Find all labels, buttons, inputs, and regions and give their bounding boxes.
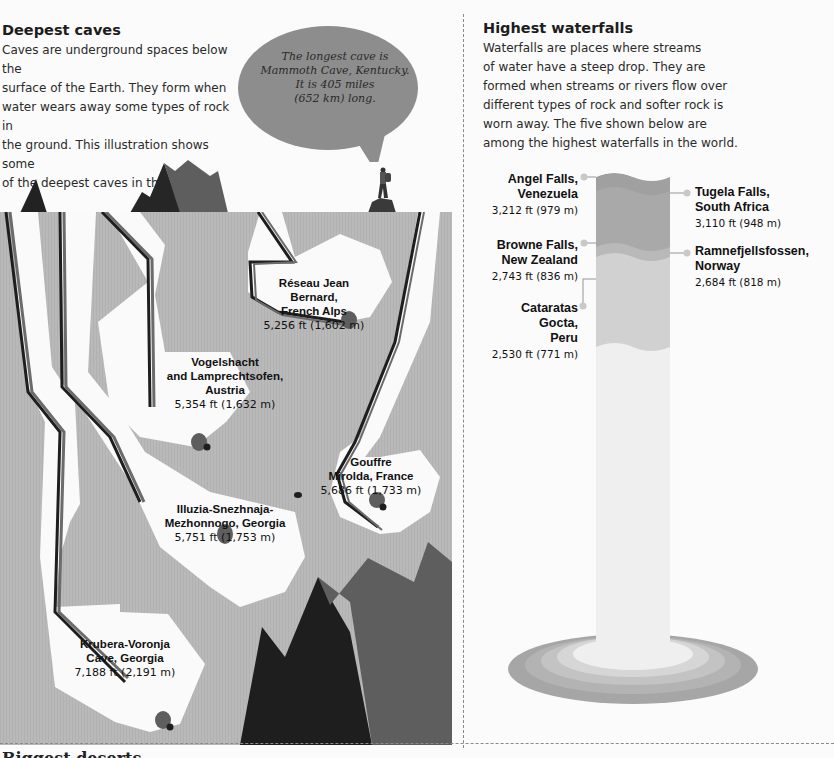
- waterfall-label: Ramnefjellsfossen, Norway 2,684 ft (818 …: [695, 244, 834, 291]
- cave-label: Illuzia-Snezhnaja- Mezhonnogo, Georgia 5…: [150, 502, 300, 545]
- section-divider-vertical: [463, 14, 464, 748]
- speech-bubble-text: The longest cave is Mammoth Cave, Kentuc…: [260, 50, 410, 106]
- section-divider-horizontal: [0, 743, 834, 744]
- surface-mountains-icon: [0, 160, 460, 216]
- caves-section: Deepest caves Caves are underground spac…: [0, 0, 460, 745]
- waterfalls-intro: Waterfalls are places where streams of w…: [483, 39, 783, 153]
- waterfall-label: Tugela Falls, South Africa 3,110 ft (948…: [695, 185, 825, 232]
- hiker-icon: [378, 168, 391, 199]
- cave-label: Vogelshacht and Lamprechtsofen, Austria …: [150, 355, 300, 412]
- cave-label: Réseau Jean Bernard, French Alps 5,256 f…: [246, 276, 382, 333]
- cave-label: Krubera-Voronja Cave, Georgia 7,188 ft (…: [70, 637, 180, 680]
- waterfalls-title: Highest waterfalls: [483, 20, 633, 36]
- caves-title: Deepest caves: [2, 22, 121, 38]
- waterfall-label: Angel Falls, Venezuela 3,212 ft (979 m): [480, 172, 578, 219]
- waterfall-label: Cataratas Gocta, Peru 2,530 ft (771 m): [480, 301, 578, 363]
- waterfall-label: Browne Falls, New Zealand 2,743 ft (836 …: [480, 238, 578, 285]
- next-section-title: Biggest deserts: [2, 749, 142, 758]
- cave-label: Gouffre Mirolda, France 5,686 ft (1,733 …: [306, 455, 436, 498]
